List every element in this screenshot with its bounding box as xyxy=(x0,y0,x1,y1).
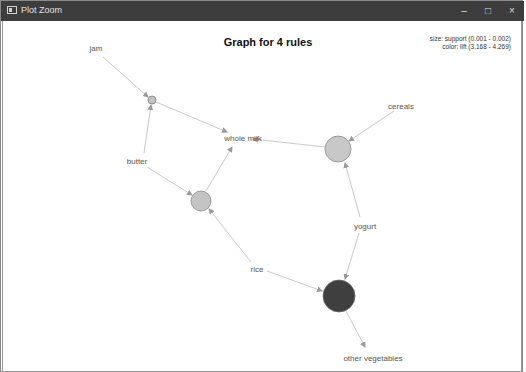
rule-node-2[interactable] xyxy=(191,191,211,211)
edge-rice-rule4 xyxy=(267,271,322,291)
item-label-other-vegetables: other vegetables xyxy=(343,354,402,363)
item-label-butter: butter xyxy=(127,157,148,166)
edge-yogurt-rule3 xyxy=(345,163,360,217)
edge-butter-rule2 xyxy=(147,167,192,195)
title-bar[interactable]: Plot Zoom – □ × xyxy=(1,1,524,21)
legend-color: color: lift (3.168 - 4.269) xyxy=(442,43,511,51)
close-button[interactable]: × xyxy=(498,1,526,21)
edge-yogurt-rule4 xyxy=(345,233,359,279)
edge-butter-rule1 xyxy=(144,105,151,153)
plot-zoom-icon xyxy=(7,6,17,14)
edge-rule3-wholemilk xyxy=(253,139,325,147)
legend-size: size: support (0.001 - 0.002) xyxy=(430,35,511,43)
rule-node-4[interactable] xyxy=(323,280,355,312)
plot-title: Graph for 4 rules xyxy=(224,36,313,48)
item-label-whole-milk: whole milk xyxy=(223,134,262,143)
plot-area: jam whole milk butter cereals yogurt ric… xyxy=(2,21,522,372)
edge-rule1-wholemilk xyxy=(156,102,227,132)
rule-node-1[interactable] xyxy=(148,96,156,104)
edge-rice-rule2 xyxy=(209,209,251,262)
item-label-jam: jam xyxy=(89,44,103,53)
edge-rule2-wholemilk xyxy=(206,147,232,191)
rules-graph: jam whole milk butter cereals yogurt ric… xyxy=(3,21,523,372)
edge-rule4-othervegetables xyxy=(346,311,365,347)
item-label-cereals: cereals xyxy=(388,102,414,111)
rule-node-3[interactable] xyxy=(325,136,351,162)
item-label-rice: rice xyxy=(251,265,264,274)
window-title: Plot Zoom xyxy=(21,5,62,16)
edge-jam-rule1 xyxy=(103,57,148,97)
item-label-yogurt: yogurt xyxy=(354,222,377,231)
edge-cereals-rule3 xyxy=(349,111,394,141)
